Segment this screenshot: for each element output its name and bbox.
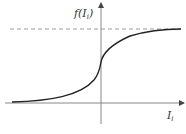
sigmoid-diagram: f(Ii) Ii — [0, 0, 186, 134]
y-axis-label: f(Ii) — [73, 7, 93, 21]
sigmoid-curve — [12, 29, 181, 102]
x-axis-label: Ii — [166, 109, 174, 123]
